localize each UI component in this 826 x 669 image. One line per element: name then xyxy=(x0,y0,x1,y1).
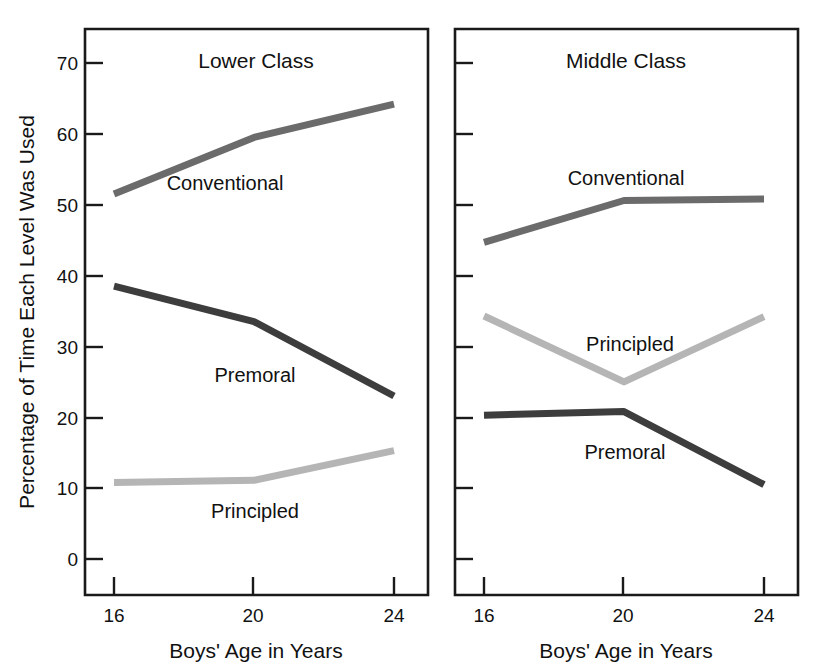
series-label-principled-middle: Principled xyxy=(586,333,674,355)
x-tick-label-24-right: 24 xyxy=(753,605,775,626)
y-tick-labels-left-panel: 70 60 50 40 30 20 10 0 xyxy=(57,53,78,570)
series-label-principled-lower: Principled xyxy=(211,500,299,522)
panel-middle-class: 16 20 24 Middle Class Conventional Princ… xyxy=(455,29,798,662)
panel-lower-class: 70 60 50 40 30 20 10 0 16 20 24 xyxy=(15,29,428,662)
y-ticks-left-panel xyxy=(85,63,103,559)
x-axis-title-right-panel: Boys' Age in Years xyxy=(539,639,712,662)
y-tick-label-20: 20 xyxy=(57,408,78,429)
y-tick-label-40: 40 xyxy=(57,266,78,287)
series-line-conventional-middle xyxy=(484,199,764,242)
y-tick-label-0: 0 xyxy=(67,549,78,570)
y-axis-title: Percentage of Time Each Level Was Used xyxy=(15,115,38,509)
figure-canvas: 70 60 50 40 30 20 10 0 16 20 24 xyxy=(0,0,826,669)
series-label-premoral-middle: Premoral xyxy=(584,441,665,463)
x-ticks-right-panel xyxy=(484,577,764,595)
x-tick-label-20: 20 xyxy=(242,605,263,626)
x-tick-label-16-right: 16 xyxy=(473,605,494,626)
series-label-premoral-lower: Premoral xyxy=(214,364,295,386)
x-tick-labels-left-panel: 16 20 24 xyxy=(103,605,405,626)
x-axis-title-left-panel: Boys' Age in Years xyxy=(169,639,342,662)
y-ticks-right-panel xyxy=(455,63,473,559)
series-label-conventional-middle: Conventional xyxy=(568,167,685,189)
y-tick-label-50: 50 xyxy=(57,195,78,216)
x-tick-label-20-right: 20 xyxy=(612,605,633,626)
x-ticks-left-panel xyxy=(114,577,394,595)
y-tick-label-30: 30 xyxy=(57,337,78,358)
x-tick-labels-right-panel: 16 20 24 xyxy=(473,605,775,626)
panel-title-lower-class: Lower Class xyxy=(198,49,314,72)
panel-title-middle-class: Middle Class xyxy=(566,49,686,72)
y-tick-label-60: 60 xyxy=(57,124,78,145)
series-label-conventional-lower: Conventional xyxy=(167,172,284,194)
chart-svg: 70 60 50 40 30 20 10 0 16 20 24 xyxy=(0,0,826,669)
x-tick-label-16: 16 xyxy=(103,605,124,626)
y-tick-label-70: 70 xyxy=(57,53,78,74)
x-tick-label-24: 24 xyxy=(383,605,405,626)
series-line-principled-lower xyxy=(114,451,394,483)
axis-frame-right-panel xyxy=(455,29,798,595)
y-tick-label-10: 10 xyxy=(57,478,78,499)
